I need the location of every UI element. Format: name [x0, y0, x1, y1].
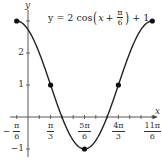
- fraction-den: 6: [118, 18, 123, 27]
- key-point: [14, 18, 19, 23]
- x-tick-label: π3: [43, 122, 59, 141]
- open-paren: (: [93, 9, 97, 27]
- key-point: [82, 146, 87, 151]
- equation-fraction: π 6: [117, 8, 124, 27]
- x-tick-label: 5π6: [77, 122, 93, 141]
- key-point: [116, 82, 121, 87]
- equation-plus: +: [106, 12, 114, 23]
- key-point: [48, 82, 53, 87]
- x-tick-label: 4π3: [110, 122, 126, 141]
- y-tick-label: −1: [11, 144, 24, 153]
- key-point: [150, 18, 155, 23]
- chart-title: y = 2 cos ( x + π 6 ) + 1: [48, 8, 149, 27]
- y-tick-label: 1: [18, 80, 24, 89]
- y-tick-label: 2: [18, 48, 24, 57]
- x-tick-label: π6: [9, 122, 25, 141]
- fraction-num: π: [117, 8, 124, 18]
- y-axis-label: y: [25, 1, 30, 10]
- equation-suffix: + 1: [132, 12, 149, 23]
- close-paren: ): [125, 9, 129, 27]
- x-tick-label: 11π6: [144, 122, 160, 141]
- x-axis-label: x: [155, 107, 160, 116]
- equation-var: x: [98, 12, 103, 23]
- equation-prefix: y = 2 cos: [48, 12, 92, 23]
